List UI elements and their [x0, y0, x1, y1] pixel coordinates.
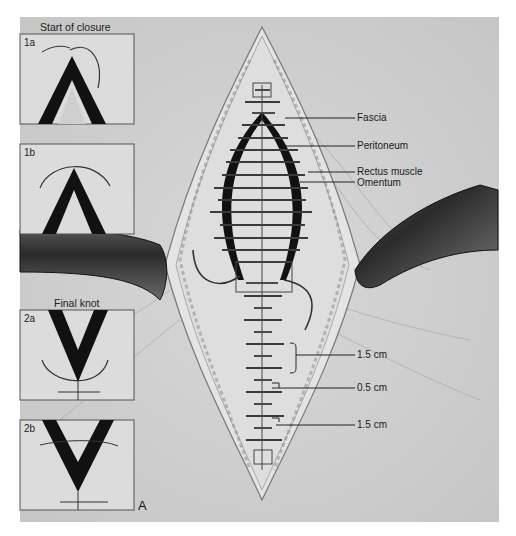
- inset-1b: 1b: [20, 144, 134, 234]
- label-rectus-muscle: Rectus muscle: [357, 166, 423, 177]
- label-fascia: Fascia: [357, 112, 387, 123]
- label-peritoneum: Peritoneum: [357, 140, 408, 151]
- measurement-label-3: 1.5 cm: [357, 419, 387, 430]
- inset-2a: 2a: [20, 310, 134, 400]
- inset-2b: 2b: [20, 420, 134, 510]
- panel-letter: A: [138, 498, 147, 513]
- inset-1a: 1a: [20, 34, 134, 124]
- measurement-label-2: 0.5 cm: [357, 382, 387, 393]
- label-omentum: Omentum: [357, 177, 401, 188]
- measurement-label-1: 1.5 cm: [357, 349, 387, 360]
- svg-text:1a: 1a: [24, 37, 36, 48]
- svg-text:2b: 2b: [24, 423, 36, 434]
- inset-group-title: Start of closure: [40, 21, 111, 33]
- abdominal-closure-illustration: Start of closure 1a 1b Final knot 2a: [0, 0, 516, 536]
- svg-text:2a: 2a: [24, 313, 36, 324]
- svg-text:1b: 1b: [24, 147, 36, 158]
- inset-group-title: Final knot: [54, 297, 100, 309]
